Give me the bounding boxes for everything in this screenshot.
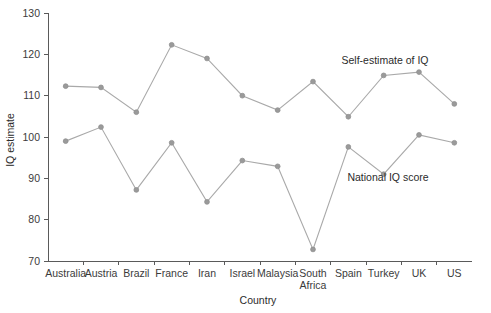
data-point-marker xyxy=(240,93,245,98)
x-tick-label: UK xyxy=(412,267,427,279)
data-point-marker xyxy=(240,158,245,163)
data-point-marker xyxy=(346,145,351,150)
x-tick-label: Iran xyxy=(198,267,216,279)
data-point-marker xyxy=(417,70,422,75)
y-axis-title: IQ estimate xyxy=(4,113,16,167)
x-tick-label: France xyxy=(155,267,188,279)
data-point-marker xyxy=(275,164,280,169)
y-tick-label: 90 xyxy=(28,172,40,184)
data-point-marker xyxy=(346,114,351,119)
data-point-marker xyxy=(63,84,68,89)
data-point-marker xyxy=(205,56,210,61)
data-point-marker xyxy=(452,140,457,145)
data-point-marker xyxy=(452,102,457,107)
data-point-marker xyxy=(417,133,422,138)
x-tick-label: Brazil xyxy=(123,267,149,279)
data-point-marker xyxy=(311,79,316,84)
y-tick-label: 120 xyxy=(22,48,40,60)
x-tick-label: Malaysia xyxy=(257,267,299,279)
data-point-marker xyxy=(169,42,174,47)
x-tick-label: US xyxy=(447,267,462,279)
y-tick-label: 110 xyxy=(23,89,40,101)
y-tick-label: 70 xyxy=(28,255,40,267)
line-chart-canvas: 708090100110120130 AustraliaAustriaBrazi… xyxy=(0,0,491,313)
x-tick-label: Spain xyxy=(335,267,362,279)
x-axis-title: Country xyxy=(240,294,278,306)
y-tick-label: 80 xyxy=(28,213,40,225)
data-point-marker xyxy=(99,125,104,130)
data-point-marker xyxy=(134,110,139,115)
x-tick-label: SouthAfrica xyxy=(299,267,327,291)
x-tick-label: Turkey xyxy=(368,267,400,279)
series-annotation-label: Self-estimate of IQ xyxy=(342,54,429,66)
y-tick-label: 100 xyxy=(22,131,40,143)
x-tick-label: Austria xyxy=(85,267,118,279)
chart-figure: 708090100110120130 AustraliaAustriaBrazi… xyxy=(0,0,491,313)
data-point-marker xyxy=(275,108,280,113)
data-point-marker xyxy=(311,247,316,252)
data-point-marker xyxy=(169,140,174,145)
x-tick-label: Australia xyxy=(45,267,86,279)
data-point-marker xyxy=(134,188,139,193)
series-annotation-label: National IQ score xyxy=(347,171,428,183)
data-point-marker xyxy=(381,73,386,78)
data-point-marker xyxy=(99,85,104,90)
data-point-marker xyxy=(63,139,68,144)
x-tick-label: Israel xyxy=(229,267,255,279)
y-tick-label: 130 xyxy=(22,7,40,19)
data-point-marker xyxy=(205,199,210,204)
